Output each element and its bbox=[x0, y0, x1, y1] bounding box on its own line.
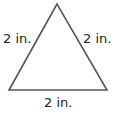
triangle-diagram: 2 in. 2 in. 2 in. bbox=[0, 0, 113, 113]
left-side-label: 2 in. bbox=[3, 31, 31, 46]
bottom-side-label: 2 in. bbox=[44, 95, 72, 110]
right-side-label: 2 in. bbox=[83, 31, 111, 46]
triangle-shape bbox=[9, 4, 107, 90]
